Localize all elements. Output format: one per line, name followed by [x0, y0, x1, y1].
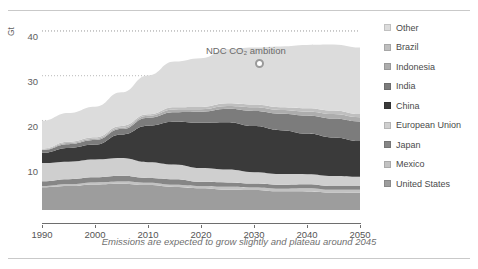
- legend-item[interactable]: Indonesia: [384, 57, 478, 77]
- legend-item-label: Indonesia: [396, 62, 435, 72]
- legend-swatch-icon: [384, 122, 391, 129]
- x-tick-mark: [148, 225, 149, 228]
- y-tick-label-20: 20: [14, 121, 38, 132]
- x-axis-line: [42, 223, 361, 224]
- legend-item-label: India: [396, 81, 416, 91]
- y-tick-label-30: 30: [14, 76, 38, 87]
- legend-swatch-icon: [384, 161, 391, 168]
- x-tick-mark: [360, 225, 361, 228]
- x-tick-mark: [95, 225, 96, 228]
- stacked-area-svg: [42, 22, 360, 210]
- chart-caption: Emissions are expected to grow slightly …: [0, 236, 478, 247]
- legend-item[interactable]: Japan: [384, 135, 478, 155]
- y-tick-label-40: 40: [14, 31, 38, 42]
- legend-swatch-icon: [384, 24, 391, 31]
- x-tick-mark: [42, 225, 43, 228]
- legend-item[interactable]: China: [384, 96, 478, 116]
- legend-item-label: Mexico: [396, 159, 425, 169]
- legend-item[interactable]: United States: [384, 174, 478, 194]
- legend-item[interactable]: European Union: [384, 116, 478, 136]
- chart-card: Gt 40 30 20 10 NDC CO₂ ambition 19902000…: [0, 0, 478, 269]
- ndc-annotation-label: NDC CO₂ ambition: [206, 45, 286, 56]
- legend-item-label: United States: [396, 179, 450, 189]
- legend-item-label: European Union: [396, 120, 461, 130]
- legend-swatch-icon: [384, 102, 391, 109]
- legend-item[interactable]: Mexico: [384, 155, 478, 175]
- stacked-area-plot: [42, 22, 360, 210]
- legend-item-label: Other: [396, 23, 419, 33]
- x-tick-mark: [254, 225, 255, 228]
- top-divider: [8, 10, 470, 11]
- legend-item-label: Japan: [396, 140, 421, 150]
- legend-swatch-icon: [384, 180, 391, 187]
- chart-legend: OtherBrazilIndonesiaIndiaChinaEuropean U…: [384, 18, 478, 194]
- legend-item-label: Brazil: [396, 42, 419, 52]
- legend-item[interactable]: India: [384, 77, 478, 97]
- legend-swatch-icon: [384, 63, 391, 70]
- legend-item[interactable]: Brazil: [384, 38, 478, 58]
- x-tick-mark: [307, 225, 308, 228]
- ndc-ambition-marker-icon: [255, 59, 264, 68]
- y-tick-label-10: 10: [14, 166, 38, 177]
- legend-item-label: China: [396, 101, 420, 111]
- legend-item[interactable]: Other: [384, 18, 478, 38]
- legend-swatch-icon: [384, 83, 391, 90]
- legend-swatch-icon: [384, 44, 391, 51]
- x-tick-mark: [201, 225, 202, 228]
- bottom-divider: [8, 258, 470, 259]
- legend-swatch-icon: [384, 141, 391, 148]
